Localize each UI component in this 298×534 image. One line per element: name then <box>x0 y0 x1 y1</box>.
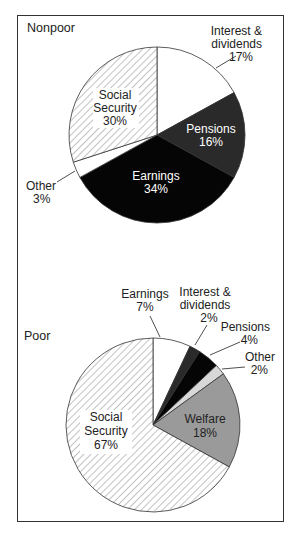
nonpoor-interest-label-2: dividends <box>211 37 262 51</box>
poor-ss-label-1: Social <box>90 410 123 424</box>
poor-pensions-pct: 4% <box>241 333 259 347</box>
nonpoor-other-pct: 3% <box>33 192 51 206</box>
poor-welfare-label: Welfare <box>184 412 225 426</box>
poor-other-pct: 2% <box>251 363 269 377</box>
nonpoor-other-leader <box>57 171 75 182</box>
poor-earnings-leader <box>150 316 160 337</box>
poor-other-label: Other <box>245 350 275 364</box>
poor-ss-pct: 67% <box>94 438 118 452</box>
nonpoor-title: Nonpoor <box>27 21 75 35</box>
poor-interest-label-1: Interest & <box>179 285 230 299</box>
nonpoor-other-label: Other <box>26 179 56 193</box>
pie-charts: Nonpoor Interest & dividends 17% Pension… <box>0 0 298 534</box>
poor-other-leader <box>222 367 245 369</box>
poor-pensions-label: Pensions <box>221 320 270 334</box>
nonpoor-interest-label-1: Interest & <box>211 24 262 38</box>
poor-pensions-leader <box>210 342 240 355</box>
poor-earnings-pct: 7% <box>136 300 154 314</box>
nonpoor-earnings-pct: 34% <box>144 182 168 196</box>
poor-title: Poor <box>24 329 50 343</box>
poor-interest-pct: 2% <box>200 311 218 325</box>
poor-welfare-pct: 18% <box>193 426 217 440</box>
poor-ss-label-2: Security <box>84 424 127 438</box>
nonpoor-ss-label-1: Social <box>99 88 132 102</box>
nonpoor-ss-label-2: Security <box>93 101 136 115</box>
nonpoor-interest-pct: 17% <box>229 50 253 64</box>
poor-interest-leader <box>195 325 207 345</box>
poor-earnings-label: Earnings <box>121 287 168 301</box>
nonpoor-ss-pct: 30% <box>103 114 127 128</box>
nonpoor-pensions-label: Pensions <box>186 122 235 136</box>
poor-interest-label-2: dividends <box>180 298 231 312</box>
nonpoor-pensions-pct: 16% <box>199 135 223 149</box>
nonpoor-earnings-label: Earnings <box>132 169 179 183</box>
